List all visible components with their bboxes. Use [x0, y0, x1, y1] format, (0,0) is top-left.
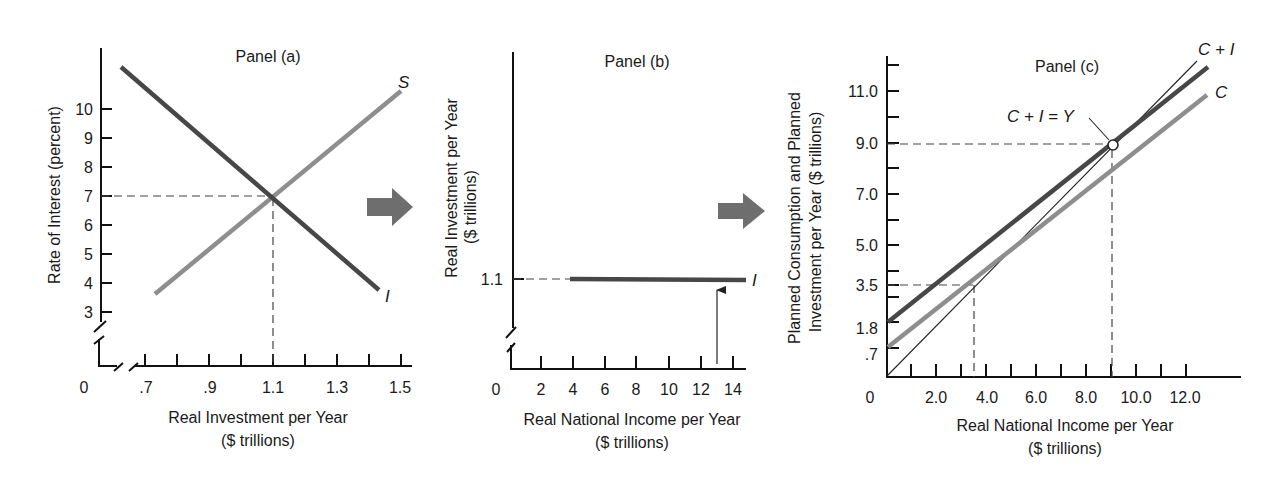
panel-c-y-axis-subtitle: Investment per Year ($ trillions) — [807, 112, 824, 333]
panel-b-x-axis-subtitle: ($ trillions) — [595, 434, 669, 451]
x-tick-label: 12.0 — [1169, 389, 1200, 406]
origin-label: 0 — [492, 381, 501, 398]
panel-a-x-axis-title: Real Investment per Year — [168, 409, 348, 426]
panel-c-y-axis-title: Planned Consumption and Planned — [786, 92, 803, 344]
origin-label: 0 — [866, 389, 875, 406]
panel-b-y-tick-label: 1.1 — [481, 271, 503, 288]
x-tick-label: 1.3 — [326, 379, 348, 396]
panel-c-consumption-line — [888, 95, 1207, 347]
panel-a-s-label: S — [398, 73, 410, 92]
panel-a-title: Panel (a) — [236, 48, 301, 65]
panel-c-aggregate-demand-line — [888, 67, 1208, 322]
y-tick-label: 4 — [84, 275, 93, 292]
x-tick-label: 2.0 — [925, 389, 947, 406]
panel-b-x-axis — [511, 356, 746, 369]
y-tick-label: 10 — [75, 101, 93, 118]
right-arrow-icon — [367, 188, 413, 226]
panel-a: Panel (a) — [46, 48, 412, 449]
panel-a-i-label: I — [385, 287, 390, 306]
x-tick-label: 10.0 — [1120, 389, 1151, 406]
x-tick-label: .7 — [139, 379, 152, 396]
panel-a-y-tick-labels: 10 9 8 7 6 5 4 3 — [75, 101, 93, 321]
panel-a-saving-curve — [155, 91, 401, 294]
panel-c-x-axis — [886, 364, 1241, 377]
right-arrow-icon — [718, 193, 765, 229]
y-tick-label: 7 — [84, 188, 93, 205]
panel-b-y-axis-title: Real Investment per Year — [443, 98, 460, 278]
panel-c-x-axis-subtitle: ($ trillions) — [1028, 440, 1102, 457]
x-tick-label: 4.0 — [976, 389, 998, 406]
panel-a-x-axis — [99, 354, 412, 371]
panel-b: Panel (b) 1.1 0 2 4 6 8 10 12 — [443, 52, 757, 451]
figure: Panel (a) — [0, 0, 1276, 499]
x-tick-label: 1.1 — [262, 379, 284, 396]
panel-a-y-axis — [94, 48, 112, 367]
y-tick-label: 3 — [84, 304, 93, 321]
panel-c-equilibrium-label: C + I = Y — [1007, 107, 1075, 126]
x-tick-label: 8.0 — [1075, 389, 1097, 406]
panel-b-title: Panel (b) — [605, 53, 670, 70]
y-tick-label: 5 — [84, 246, 93, 263]
x-tick-label: 10 — [660, 381, 678, 398]
panel-c-y-tick-labels: 11.0 9.0 7.0 5.0 3.5 1.8 .7 — [848, 83, 878, 363]
x-tick-label: 12 — [692, 381, 710, 398]
x-tick-label: 4 — [569, 381, 578, 398]
y-tick-label: 1.8 — [856, 320, 878, 337]
panel-b-x-tick-labels: 0 2 4 6 8 10 12 14 — [492, 381, 742, 398]
panel-c-c-label: C — [1215, 83, 1228, 102]
x-tick-label: .9 — [203, 379, 216, 396]
panel-a-x-axis-subtitle: ($ trillions) — [221, 432, 295, 449]
panel-c-ci-label: C + I — [1198, 40, 1235, 59]
y-tick-label: 9 — [84, 130, 93, 147]
panel-b-i-label: I — [752, 271, 757, 290]
panel-a-investment-curve — [121, 67, 379, 290]
panel-b-x-axis-title: Real National Income per Year — [523, 411, 741, 428]
panel-a-y-axis-title: Rate of Interest (percent) — [46, 106, 63, 284]
x-tick-label: 2 — [537, 381, 546, 398]
y-tick-label: 8 — [84, 159, 93, 176]
x-tick-label: 6 — [601, 381, 610, 398]
y-tick-label: 6 — [84, 217, 93, 234]
panel-a-equilibrium-guides — [101, 196, 273, 366]
panel-c-x-tick-labels: 0 2.0 4.0 6.0 8.0 10.0 12.0 — [866, 389, 1201, 406]
y-tick-label: 5.0 — [856, 237, 878, 254]
origin-label: 0 — [80, 379, 89, 396]
x-tick-label: 6.0 — [1025, 389, 1047, 406]
x-tick-label: 14 — [724, 381, 742, 398]
panel-c-equilibrium-leader — [1089, 118, 1109, 140]
y-tick-label: 3.5 — [856, 277, 878, 294]
panel-c: Panel (c) — [786, 40, 1241, 457]
panel-c-x-axis-title: Real National Income per Year — [956, 417, 1174, 434]
panel-b-y-axis-subtitle: ($ trillions) — [462, 170, 479, 244]
panel-a-x-tick-labels: 0 .7 .9 1.1 1.3 1.5 — [80, 379, 412, 396]
y-tick-label: 9.0 — [856, 135, 878, 152]
x-tick-label: 8 — [632, 381, 641, 398]
panel-b-investment-line — [570, 279, 746, 280]
y-tick-label: 7.0 — [856, 186, 878, 203]
panel-b-y-axis — [506, 52, 524, 370]
panel-c-title: Panel (c) — [1035, 58, 1099, 75]
y-tick-label: .7 — [865, 346, 878, 363]
y-tick-label: 11.0 — [848, 83, 878, 100]
x-tick-label: 1.5 — [389, 379, 411, 396]
panel-c-y-axis — [887, 56, 899, 377]
panel-c-equilibrium-point — [1108, 140, 1118, 150]
